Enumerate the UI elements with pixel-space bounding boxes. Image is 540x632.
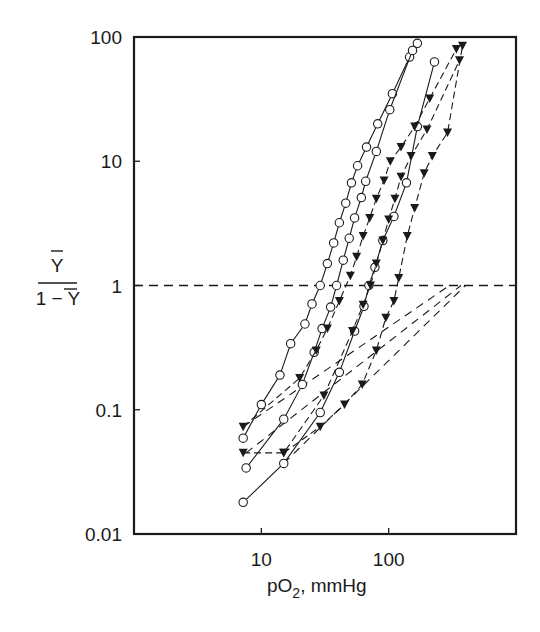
open-circle-marker	[301, 320, 309, 328]
filled-triangle-marker	[352, 253, 361, 262]
hill-plot-chart: 0.010.111010010100 Y 1 − Y pO2, mmHg	[0, 0, 540, 632]
open-circle-marker	[326, 303, 334, 311]
series-triangles-3	[279, 42, 467, 458]
x-label-rest: , mmHg	[300, 575, 367, 596]
filled-triangle-marker	[403, 232, 412, 241]
filled-triangle-marker	[397, 143, 406, 152]
open-circle-marker	[329, 239, 337, 247]
filled-triangle-marker	[335, 297, 344, 306]
filled-triangle-marker	[428, 152, 437, 161]
series-line	[243, 60, 459, 453]
filled-triangle-marker	[394, 274, 403, 283]
open-circle-marker	[280, 415, 288, 423]
filled-triangle-marker	[390, 195, 399, 204]
plot-frame	[134, 37, 516, 534]
y-label-numerator: Y	[51, 255, 64, 276]
open-circle-marker	[339, 256, 347, 264]
filled-triangle-marker	[380, 176, 389, 185]
open-circle-marker	[357, 193, 365, 201]
open-circle-marker	[335, 219, 343, 227]
open-circle-marker	[430, 58, 438, 66]
series-triangles-2	[239, 56, 464, 457]
open-circle-marker	[257, 400, 265, 408]
filled-triangle-marker	[389, 297, 398, 306]
filled-triangle-marker	[425, 94, 434, 103]
open-circle-marker	[276, 371, 284, 379]
filled-triangle-marker	[346, 272, 355, 281]
filled-triangle-marker	[407, 152, 416, 161]
filled-triangle-marker	[372, 195, 381, 204]
x-tick-label: 10	[251, 549, 272, 570]
open-circle-marker	[350, 214, 358, 222]
open-circle-marker	[353, 162, 361, 170]
open-circle-marker	[316, 408, 324, 416]
filled-triangle-marker	[410, 204, 419, 213]
open-circle-marker	[342, 199, 350, 207]
open-circle-marker	[242, 464, 250, 472]
filled-triangle-marker	[340, 401, 349, 410]
filled-triangle-marker	[239, 423, 248, 432]
open-circle-marker	[408, 46, 416, 54]
open-circle-marker	[286, 340, 294, 348]
asymptote-line	[246, 286, 461, 453]
x-label-subscript: 2	[292, 585, 300, 601]
open-circle-marker	[280, 459, 288, 467]
y-label-denominator: 1 − Y	[36, 288, 81, 309]
open-circle-marker	[239, 498, 247, 506]
open-circle-marker	[347, 179, 355, 187]
open-circle-marker	[372, 147, 380, 155]
open-circle-marker	[335, 368, 343, 376]
open-circle-marker	[402, 179, 410, 187]
filled-triangle-marker	[452, 45, 461, 54]
open-circle-marker	[332, 281, 340, 289]
y-tick-label: 10	[101, 151, 122, 172]
open-circle-marker	[323, 259, 331, 267]
reference-lines	[134, 286, 516, 464]
open-circle-marker	[316, 281, 324, 289]
y-axis-label: Y 1 − Y	[36, 251, 81, 309]
open-circle-marker	[239, 434, 247, 442]
open-circle-marker	[373, 120, 381, 128]
open-circle-marker	[362, 143, 370, 151]
filled-triangle-marker	[420, 169, 429, 178]
filled-triangle-marker	[316, 423, 325, 432]
series-line	[284, 46, 463, 453]
asymptote-line	[284, 286, 466, 464]
filled-triangle-marker	[365, 214, 374, 223]
y-tick-label: 0.01	[85, 524, 122, 545]
series-circles-2	[242, 46, 417, 472]
y-tick-label: 0.1	[96, 400, 122, 421]
open-circle-marker	[386, 105, 394, 113]
x-label-main: pO	[267, 575, 292, 596]
y-tick-label: 100	[90, 27, 122, 48]
filled-triangle-marker	[443, 129, 452, 138]
y-tick-label: 1	[111, 276, 122, 297]
open-circle-marker	[361, 177, 369, 185]
filled-triangle-marker	[359, 232, 368, 241]
x-tick-label: 100	[373, 549, 405, 570]
filled-triangle-marker	[381, 314, 390, 323]
filled-triangle-marker	[386, 157, 395, 166]
data-series	[239, 39, 467, 506]
filled-triangle-marker	[422, 126, 431, 135]
open-circle-marker	[308, 300, 316, 308]
x-axis-label: pO2, mmHg	[267, 575, 367, 601]
open-circle-marker	[345, 234, 353, 242]
